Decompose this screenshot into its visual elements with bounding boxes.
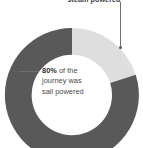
annotation-sail-line-2: journey was — [42, 76, 108, 86]
donut-chart-figure: steam powered 80% of the journey was sai… — [0, 0, 143, 148]
annotation-sail-line-3: sail powered — [42, 87, 108, 97]
annotation-sail-line-1-rest: of the — [57, 66, 78, 75]
annotation-sail-line-1: 80% of the — [42, 66, 108, 76]
annotation-sail-percent: 80% — [42, 66, 57, 75]
steam-leader-line — [119, 2, 122, 49]
annotation-sail-powered: 80% of the journey was sail powered — [42, 66, 108, 97]
